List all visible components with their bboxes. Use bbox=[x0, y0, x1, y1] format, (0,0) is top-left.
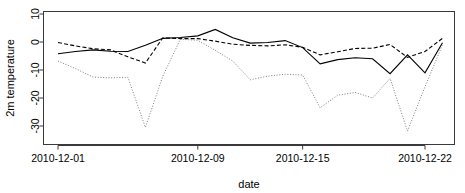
x-tick-label: 2010-12-09 bbox=[171, 152, 225, 164]
y-tick-label: 10 bbox=[29, 8, 41, 20]
y-tick-label: -20 bbox=[29, 90, 41, 105]
x-tick-label-group: 2010-12-012010-12-092010-12-152010-12-22 bbox=[31, 152, 452, 164]
y-tick-label: -30 bbox=[29, 118, 41, 133]
y-axis-title: 2m temperature bbox=[4, 39, 16, 117]
chart-container: 100-10-20-30 2m temperature 2010-12-0120… bbox=[0, 0, 465, 193]
x-tick-label: 2010-12-22 bbox=[398, 152, 452, 164]
x-tick-group bbox=[58, 146, 425, 150]
x-axis-title: date bbox=[238, 178, 259, 190]
series-group bbox=[58, 29, 442, 131]
y-tick-label: 0 bbox=[29, 39, 41, 45]
y-axis: 100-10-20-30 2m temperature bbox=[4, 8, 44, 134]
x-axis: 2010-12-012010-12-092010-12-152010-12-22… bbox=[31, 146, 452, 191]
x-tick-label: 2010-12-01 bbox=[31, 152, 85, 164]
y-tick-label-group: 100-10-20-30 bbox=[29, 8, 41, 134]
y-tick-label: -10 bbox=[29, 62, 41, 77]
x-tick-label: 2010-12-15 bbox=[276, 152, 330, 164]
line-chart: 100-10-20-30 2m temperature 2010-12-0120… bbox=[0, 0, 465, 193]
series-dashed bbox=[58, 38, 442, 63]
series-dotted bbox=[58, 39, 442, 131]
